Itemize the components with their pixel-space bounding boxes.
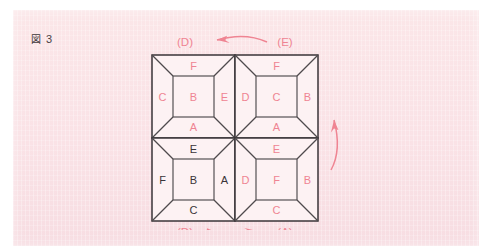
net-top-left-face-right: E bbox=[221, 91, 228, 103]
curved-arrow-up-icon bbox=[331, 120, 339, 170]
net-bottom-right-face-right: B bbox=[304, 174, 311, 186]
net-top-left: F C B E A bbox=[152, 55, 235, 138]
figure-kanji-icon: 図 bbox=[31, 31, 42, 46]
net-top-right-face-top: F bbox=[273, 60, 280, 72]
net-top-right-face-left: D bbox=[242, 91, 250, 103]
net-top-right-face-right: B bbox=[304, 91, 311, 103]
net-top-right-face-center: C bbox=[273, 91, 281, 103]
net-bottom-left-face-center: B bbox=[190, 174, 197, 186]
net-bottom-right-face-center: F bbox=[273, 174, 280, 186]
net-bottom-right-face-bottom: C bbox=[273, 204, 281, 216]
net-bottom-left-face-bottom: C bbox=[190, 204, 198, 216]
net-bottom-right-face-top: E bbox=[273, 143, 280, 155]
net-bottom-right: E D F B C bbox=[235, 138, 318, 221]
annotation-bottom-left: (D) bbox=[177, 226, 193, 230]
net-top-right-face-bottom: A bbox=[273, 121, 281, 133]
figure-number: 3 bbox=[46, 33, 53, 45]
net-top-left-face-center: B bbox=[190, 91, 197, 103]
net-bottom-left-face-right: A bbox=[221, 174, 229, 186]
annotation-bottom-right: (A) bbox=[277, 226, 293, 230]
net-top-left-face-bottom: A bbox=[190, 121, 198, 133]
figure-caption: 図 3 bbox=[31, 31, 53, 46]
curved-arrow-right-icon bbox=[207, 228, 257, 230]
net-bottom-left: E F B A C bbox=[152, 138, 235, 221]
screenshot-root: 図 3 F C B E A F bbox=[0, 0, 492, 246]
net-top-right: F D C B A bbox=[235, 55, 318, 138]
annotation-top-left: (D) bbox=[177, 36, 193, 48]
net-bottom-left-face-top: E bbox=[190, 143, 197, 155]
curved-arrow-left-icon bbox=[217, 36, 267, 43]
net-top-left-face-left: C bbox=[159, 91, 167, 103]
cube-net-diagram: F C B E A F D C B A bbox=[145, 30, 360, 230]
net-bottom-right-face-left: D bbox=[242, 174, 250, 186]
annotation-top-right: (E) bbox=[277, 36, 293, 48]
net-bottom-left-face-left: F bbox=[159, 174, 166, 186]
net-top-left-face-top: F bbox=[190, 60, 197, 72]
